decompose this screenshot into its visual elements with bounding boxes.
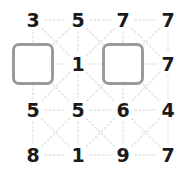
empty-answer-box[interactable] [102,43,144,85]
grid-cell-r4-c1: 8 [11,133,55,172]
grid-cell-r3-c4: 4 [146,88,182,132]
cell-number: 7 [116,11,129,30]
cell-number: 1 [71,55,84,74]
grid-cell-r1-c4: 7 [146,0,182,42]
grid-cell-r2-c3[interactable] [101,42,145,86]
number-grid-puzzle: 35771755648197 [0,0,182,172]
cell-number: 3 [26,11,39,30]
grid-cell-r3-c3: 6 [101,88,145,132]
cell-number: 4 [161,101,174,120]
cell-number: 5 [71,11,84,30]
grid-cell-r2-c2: 1 [56,42,100,86]
cell-number: 7 [161,146,174,165]
empty-answer-box[interactable] [12,43,54,85]
grid-cell-r1-c3: 7 [101,0,145,42]
grid-cell-r2-c4: 7 [146,42,182,86]
grid-cell-r4-c2: 1 [56,133,100,172]
cell-number: 6 [116,101,129,120]
grid-cell-r1-c2: 5 [56,0,100,42]
cell-number: 8 [26,146,39,165]
grid-cell-r2-c1[interactable] [11,42,55,86]
grid-cell-r1-c1: 3 [11,0,55,42]
grid-cell-r3-c1: 5 [11,88,55,132]
grid-cell-r4-c3: 9 [101,133,145,172]
cell-number: 9 [116,146,129,165]
cell-number: 7 [161,55,174,74]
cell-number: 5 [71,101,84,120]
grid-cell-r3-c2: 5 [56,88,100,132]
grid-cell-r4-c4: 7 [146,133,182,172]
cell-number: 1 [71,146,84,165]
cell-number: 7 [161,11,174,30]
cell-number: 5 [26,101,39,120]
